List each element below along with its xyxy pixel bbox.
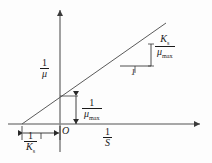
slope-annotation: Ks μmax: [155, 34, 175, 59]
y-intercept-denominator-subscript: max: [89, 114, 100, 121]
x-intercept-denominator-symbol: K: [26, 141, 33, 152]
slope-fraction: Ks μmax: [155, 34, 175, 59]
figure-container: 1 μ O 1 S Ks μmax 1 1 μmax 1: [0, 0, 212, 163]
y-intercept-denominator: μmax: [82, 109, 102, 121]
y-axis-label-numerator: 1: [40, 58, 49, 68]
slope-numerator: Ks: [158, 34, 171, 46]
y-axis-label: 1 μ: [40, 58, 49, 79]
x-intercept-denominator: Ks: [24, 142, 37, 154]
y-intercept-fraction: 1 μmax: [82, 98, 102, 121]
origin-label: O: [62, 126, 69, 136]
slope-run-label: 1: [131, 68, 136, 77]
y-axis-label-fraction: 1 μ: [40, 58, 49, 79]
x-intercept-denominator-subscript: s: [33, 147, 35, 154]
slope-denominator-subscript: max: [162, 52, 173, 59]
y-axis-label-denominator: μ: [40, 69, 49, 79]
slope-numerator-subscript: s: [167, 39, 169, 46]
x-intercept-fraction: 1 Ks: [24, 131, 37, 154]
x-axis-label: 1 S: [103, 127, 112, 148]
y-intercept-numerator: 1: [87, 98, 96, 108]
x-intercept-numerator: 1: [26, 131, 35, 141]
slope-numerator-symbol: K: [160, 33, 167, 44]
x-intercept-label: 1 Ks: [24, 131, 37, 154]
x-axis-label-fraction: 1 S: [103, 127, 112, 148]
x-axis-label-numerator: 1: [103, 127, 112, 137]
x-axis-label-denominator: S: [103, 138, 112, 148]
y-intercept-label: 1 μmax: [82, 98, 102, 121]
slope-denominator: μmax: [155, 47, 175, 59]
